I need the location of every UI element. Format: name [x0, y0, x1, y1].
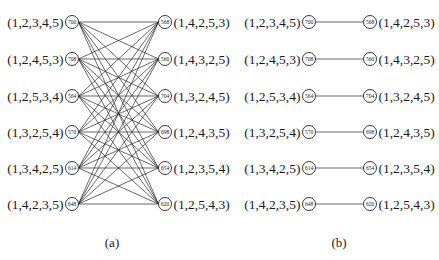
permutation-label: (1,2,5,3,4): [7, 89, 63, 104]
permutation-label: (1,4,2,5,3): [174, 15, 230, 30]
left-node: (1,2,3,4,5)700: [244, 15, 315, 30]
node-value: 614: [305, 165, 314, 171]
node-value: 568: [366, 19, 375, 25]
permutation-label: (1,2,4,3,5): [174, 125, 230, 140]
node-value: 708: [305, 56, 314, 62]
permutation-label: (1,3,2,4,5): [174, 89, 230, 104]
node-value: 570: [68, 129, 77, 135]
left-node: (1,2,3,4,5)700: [7, 15, 78, 30]
left-node: (1,2,5,3,4)564: [244, 89, 315, 104]
node-value: 564: [68, 93, 77, 99]
node-value: 560: [366, 56, 375, 62]
node-value: 654: [161, 165, 170, 171]
left-node: (1,2,5,3,4)564: [7, 89, 78, 104]
node-value: 614: [68, 165, 77, 171]
node-value: 704: [366, 93, 375, 99]
right-node: 698(1,2,4,3,5): [364, 125, 435, 140]
permutation-label: (1,4,2,3,5): [7, 197, 63, 212]
permutation-label: (1,2,3,4,5): [244, 15, 300, 30]
permutation-label: (1,2,4,5,3): [244, 52, 300, 67]
right-node: 704(1,3,2,4,5): [159, 89, 230, 104]
left-node: (1,2,4,5,3)708: [7, 52, 78, 67]
bipartite-graph-figure: (1,2,3,4,5)700(1,2,4,5,3)708(1,2,5,3,4)5…: [0, 0, 439, 260]
node-value: 568: [161, 19, 170, 25]
node-value: 560: [161, 56, 170, 62]
node-value: 564: [305, 93, 314, 99]
panel-a-complete-bipartite: (1,2,3,4,5)700(1,2,4,5,3)708(1,2,5,3,4)5…: [7, 15, 230, 251]
panel-b-caption: (b): [331, 235, 346, 250]
permutation-label: (1,2,3,5,4): [379, 161, 435, 176]
left-node: (1,4,2,3,5)648: [7, 197, 78, 212]
panel-a-caption: (a): [105, 235, 119, 250]
permutation-label: (1,2,5,3,4): [244, 89, 300, 104]
panel-b-nodes: (1,2,3,4,5)700(1,2,4,5,3)708(1,2,5,3,4)5…: [244, 15, 435, 212]
permutation-label: (1,4,2,5,3): [379, 15, 435, 30]
node-value: 704: [161, 93, 170, 99]
right-node: 654(1,2,3,5,4): [364, 161, 435, 176]
right-node: 568(1,4,2,5,3): [364, 15, 435, 30]
left-node: (1,3,2,5,4)570: [7, 125, 78, 140]
permutation-label: (1,4,3,2,5): [379, 52, 435, 67]
permutation-label: (1,4,3,2,5): [174, 52, 230, 67]
left-node: (1,3,4,2,5)614: [244, 161, 315, 176]
node-value: 698: [161, 129, 170, 135]
right-node: 620(1,2,5,4,3): [364, 197, 435, 212]
right-node: 560(1,4,3,2,5): [159, 52, 230, 67]
left-node: (1,2,4,5,3)708: [244, 52, 315, 67]
node-value: 620: [366, 201, 375, 207]
permutation-label: (1,3,2,5,4): [7, 125, 63, 140]
right-node: 698(1,2,4,3,5): [159, 125, 230, 140]
node-value: 620: [161, 201, 170, 207]
right-node: 568(1,4,2,5,3): [159, 15, 230, 30]
permutation-label: (1,3,2,4,5): [379, 89, 435, 104]
right-node: 704(1,3,2,4,5): [364, 89, 435, 104]
permutation-label: (1,4,2,3,5): [244, 197, 300, 212]
node-value: 698: [366, 129, 375, 135]
permutation-label: (1,3,2,5,4): [244, 125, 300, 140]
permutation-label: (1,2,5,4,3): [379, 197, 435, 212]
panel-b-matching: (1,2,3,4,5)700(1,2,4,5,3)708(1,2,5,3,4)5…: [244, 15, 435, 251]
permutation-label: (1,2,5,4,3): [174, 197, 230, 212]
permutation-label: (1,3,4,2,5): [7, 161, 63, 176]
panel-b-edges: [316, 22, 364, 204]
node-value: 654: [366, 165, 375, 171]
permutation-label: (1,3,4,2,5): [244, 161, 300, 176]
panel-a-edges: [79, 22, 159, 204]
right-node: 560(1,4,3,2,5): [364, 52, 435, 67]
permutation-label: (1,2,4,5,3): [7, 52, 63, 67]
right-node: 654(1,2,3,5,4): [159, 161, 230, 176]
left-node: (1,4,2,3,5)648: [244, 197, 315, 212]
permutation-label: (1,2,3,5,4): [174, 161, 230, 176]
node-value: 700: [305, 19, 314, 25]
node-value: 700: [68, 19, 77, 25]
left-node: (1,3,2,5,4)570: [244, 125, 315, 140]
left-node: (1,3,4,2,5)614: [7, 161, 78, 176]
permutation-label: (1,2,4,3,5): [379, 125, 435, 140]
node-value: 648: [305, 201, 314, 207]
permutation-label: (1,2,3,4,5): [7, 15, 63, 30]
node-value: 708: [68, 56, 77, 62]
right-node: 620(1,2,5,4,3): [159, 197, 230, 212]
node-value: 570: [305, 129, 314, 135]
node-value: 648: [68, 201, 77, 207]
